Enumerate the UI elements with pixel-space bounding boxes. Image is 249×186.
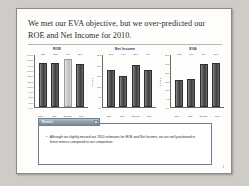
y-tick-net-income: 5.0 <box>98 96 101 98</box>
bar-value-label: 13.5 <box>53 53 57 55</box>
bar-item: 13.1 <box>76 55 84 107</box>
page-number: 3 <box>223 166 224 169</box>
y-tick-roe: 14.0% <box>27 65 33 67</box>
bar: 10.3 <box>175 80 183 107</box>
bar: 17.9 <box>144 70 152 107</box>
y-tick-roe: 16.0% <box>27 54 33 56</box>
bar-value-label: 14.8 <box>121 53 125 55</box>
y-tick-net-income: 20.0 <box>97 65 101 67</box>
bar-item: 10.3 <box>175 55 183 107</box>
bar: 14.8 <box>64 59 72 107</box>
y-tick-eva: 10.0 <box>165 89 169 91</box>
y-axis-eva: 20.017.515.012.510.07.55.0$ Millions <box>161 55 170 108</box>
y-tick-eva: 15.0 <box>165 72 169 74</box>
bar-value-label: 16.4 <box>202 53 206 55</box>
bar: 14.8 <box>119 76 127 107</box>
bar: 10.7 <box>187 79 195 107</box>
y-tick-eva: 20.0 <box>165 54 169 56</box>
y-tick-roe: 15.0% <box>27 59 33 61</box>
bar-item: 17.6 <box>107 55 115 107</box>
bar-item: 10.7 <box>187 55 195 107</box>
bar-item: 13.5 <box>51 55 59 107</box>
charts-container: ROE 16.0%15.0%14.0%13.0%12.0%11.0%10.0%9… <box>25 47 225 119</box>
x-tick-label: 2009 <box>185 115 196 117</box>
x-tick-label: 2010 Est. <box>198 115 209 117</box>
bar-value-label: 14.8 <box>66 53 70 55</box>
plot-area-roe: 13.613.514.813.1 <box>34 55 88 108</box>
bar: 13.5 <box>51 63 59 107</box>
chart-net-income: Net Income 25.020.015.010.05.00.0$ Milli… <box>93 47 157 119</box>
y-axis-roe: 16.0%15.0%14.0%13.0%12.0%11.0%10.0%9.0%8… <box>25 55 34 108</box>
bar-item: 14.8 <box>64 55 72 107</box>
y-tick-roe: 7.0% <box>28 102 33 104</box>
y-axis-label-eva: $ Millions <box>159 77 161 86</box>
bar-item: 14.8 <box>119 55 127 107</box>
callout-tab-handle-icon <box>94 120 98 124</box>
bar-value-label: 10.7 <box>189 53 193 55</box>
x-tick-label: 2010 <box>212 115 223 117</box>
bar-value-label: 17.1 <box>214 53 218 55</box>
y-tick-roe: 9.0% <box>28 91 33 93</box>
bar: 17.6 <box>107 70 115 107</box>
bar-value-label: 10.3 <box>177 53 181 55</box>
bar-value-label: 20.1 <box>134 53 138 55</box>
bar-group-eva: 10.310.716.417.1 <box>171 55 224 107</box>
x-tick-label: 2010 Est. <box>130 115 141 117</box>
bar-item: 17.1 <box>212 55 220 107</box>
x-tick-label: 2010 <box>144 115 155 117</box>
y-axis-label-net-income: $ Millions <box>91 77 93 86</box>
results-bullet-text: Although we slightly missed our 2010 est… <box>50 135 204 146</box>
x-tick-label: 2008 <box>171 115 182 117</box>
y-tick-net-income: 0.0 <box>98 107 101 109</box>
bar-item: 13.6 <box>39 55 47 107</box>
results-callout-tab-label: Results <box>39 120 53 124</box>
y-tick-eva: 17.5 <box>165 63 169 65</box>
results-callout: Results • Although we slightly missed ou… <box>38 123 212 165</box>
y-tick-net-income: 25.0 <box>97 54 101 56</box>
bar: 13.6 <box>39 63 47 107</box>
bar-value-label: 17.9 <box>146 53 150 55</box>
bar: 16.4 <box>200 64 208 107</box>
y-tick-net-income: 10.0 <box>97 86 101 88</box>
bar-item: 17.9 <box>144 55 152 107</box>
bar-item: 20.1 <box>132 55 140 107</box>
y-tick-roe: 8.0% <box>28 96 33 98</box>
bullet-icon: • <box>46 135 47 146</box>
chart-eva: EVA 20.017.515.012.510.07.55.0$ Millions… <box>161 47 225 119</box>
plot-area-eva: 10.310.716.417.1 <box>170 55 224 108</box>
bar: 20.1 <box>132 65 140 107</box>
slide: We met our EVA objective, but we over-pr… <box>16 8 232 174</box>
slide-title: We met our EVA objective, but we over-pr… <box>28 18 220 41</box>
results-bullet-row: • Although we slightly missed our 2010 e… <box>46 135 204 146</box>
y-tick-eva: 7.5 <box>166 98 169 100</box>
y-tick-eva: 5.0 <box>166 107 169 109</box>
bar-item: 16.4 <box>200 55 208 107</box>
y-tick-roe: 13.0% <box>27 70 33 72</box>
y-tick-roe: 10.0% <box>27 86 33 88</box>
bar-group-net-income: 17.614.820.117.9 <box>103 55 156 107</box>
bar-group-roe: 13.613.514.813.1 <box>35 55 88 107</box>
y-tick-eva: 12.5 <box>165 81 169 83</box>
x-tick-label: 2008 <box>103 115 114 117</box>
title-divider <box>28 44 222 45</box>
bar-value-label: 13.1 <box>78 53 82 55</box>
chart-title-net-income: Net Income <box>93 47 157 51</box>
bar: 17.1 <box>212 63 220 107</box>
x-axis-labels-net-income: 200820092010 Est.2010 <box>102 115 156 117</box>
x-axis-labels-eva: 200820092010 Est.2010 <box>170 115 224 117</box>
results-callout-tab: Results <box>38 118 100 126</box>
chart-title-roe: ROE <box>25 47 89 51</box>
y-tick-roe: 12.0% <box>27 75 33 77</box>
bar: 13.1 <box>76 64 84 107</box>
x-tick-label: 2009 <box>117 115 128 117</box>
y-axis-net-income: 25.020.015.010.05.00.0$ Millions <box>93 55 102 108</box>
y-tick-net-income: 15.0 <box>97 75 101 77</box>
bar-value-label: 17.6 <box>109 53 113 55</box>
plot-area-net-income: 17.614.820.117.9 <box>102 55 156 108</box>
y-tick-roe: 6.0% <box>28 107 33 109</box>
chart-title-eva: EVA <box>161 47 225 51</box>
bar-value-label: 13.6 <box>41 53 45 55</box>
chart-roe: ROE 16.0%15.0%14.0%13.0%12.0%11.0%10.0%9… <box>25 47 89 119</box>
y-tick-roe: 11.0% <box>28 81 34 83</box>
